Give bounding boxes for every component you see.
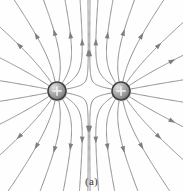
right-charge — [112, 82, 131, 102]
figure-caption: (a) — [0, 175, 183, 187]
electric-field-figure: (a) — [0, 0, 183, 191]
figure-background — [0, 0, 183, 191]
field-lines-canvas — [0, 0, 183, 191]
left-charge — [48, 82, 67, 102]
